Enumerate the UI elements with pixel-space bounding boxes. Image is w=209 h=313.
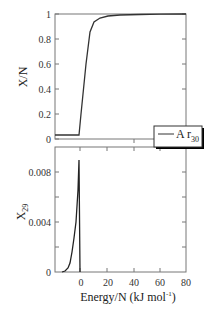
top-ytick-1: 1 <box>46 9 51 20</box>
chart-figure: 1 0.8 0.6 0.4 0.2 0 X/N 0.008 0.004 0 0 … <box>0 0 209 313</box>
xtick-20: 20 <box>103 277 113 288</box>
top-ytick-0.8: 0.8 <box>39 34 52 45</box>
x-axis-label: Energy/N (kJ mol-1) <box>80 290 176 304</box>
top-y-ticks <box>55 14 186 139</box>
bottom-y-axis-label: X29 <box>14 204 30 221</box>
top-ytick-0.4: 0.4 <box>39 84 52 95</box>
bottom-series-line <box>62 160 80 272</box>
top-ytick-0.2: 0.2 <box>39 109 52 120</box>
xtick-80: 80 <box>181 277 191 288</box>
top-plot-frame <box>55 14 186 139</box>
bottom-ytick-0.008: 0.008 <box>29 167 52 178</box>
top-ytick-0.6: 0.6 <box>39 59 52 70</box>
top-y-axis-label: X/N <box>16 66 30 87</box>
xtick-40: 40 <box>129 277 139 288</box>
bottom-ticks <box>55 139 186 272</box>
xtick-0: 0 <box>79 277 84 288</box>
bottom-plot-frame <box>55 147 186 272</box>
top-ytick-0: 0 <box>46 134 51 145</box>
legend: A r30 <box>154 126 204 149</box>
bottom-ytick-0: 0 <box>46 267 51 278</box>
xtick-60: 60 <box>155 277 165 288</box>
top-series-line <box>55 14 186 135</box>
bottom-ytick-0.004: 0.004 <box>29 217 52 228</box>
